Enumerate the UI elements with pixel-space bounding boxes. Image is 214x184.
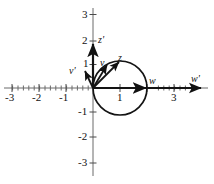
- y-tick-label-neg2: -2: [78, 130, 87, 142]
- x-tick-label-pos3: 3: [171, 91, 177, 103]
- x-tick-label-neg1: -1: [59, 91, 68, 103]
- y-tick-label-neg1: -1: [78, 105, 87, 117]
- vector-label-v: v: [100, 57, 104, 68]
- vector-diagram-figure: -3 -2 -1 1 3 3 2 1 -1 -2 -3 z v v' z' w …: [0, 0, 214, 184]
- y-tick-label-pos1: 1: [83, 57, 89, 69]
- x-tick-label-neg3: -3: [5, 91, 14, 103]
- vector-label-w-prime: w': [191, 73, 200, 84]
- y-tick-label-pos2: 2: [82, 34, 88, 46]
- vector-v-prime: [85, 71, 93, 88]
- y-tick-label-neg3: -3: [78, 156, 87, 168]
- x-tick-label-neg2: -2: [32, 91, 41, 103]
- vector-label-z: z: [118, 52, 122, 63]
- x-tick-label-pos1: 1: [117, 91, 123, 103]
- y-tick-label-pos3: 3: [82, 8, 88, 20]
- vector-label-w: w: [149, 75, 156, 86]
- vector-label-z-prime: z': [98, 34, 104, 45]
- vector-label-v-prime: v': [69, 65, 76, 76]
